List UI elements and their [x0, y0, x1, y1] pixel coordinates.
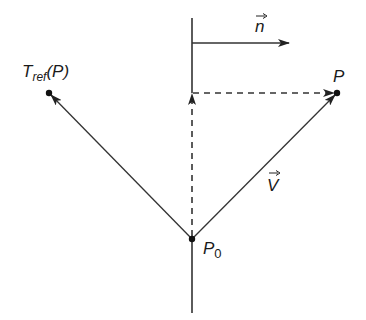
label-tref-p: Tref(P) [22, 62, 69, 84]
point-tref-p [46, 90, 52, 96]
svg-text:V: V [267, 176, 280, 195]
vector-v [192, 95, 335, 239]
vector-reflected [51, 95, 192, 239]
svg-text:n: n [255, 17, 264, 36]
label-p: P [333, 67, 345, 86]
label-p0: P0 [203, 239, 222, 261]
label-vector-v: V [267, 171, 280, 196]
label-normal: n [255, 14, 267, 37]
reflection-diagram: n P Tref(P) V P0 [0, 0, 366, 320]
diagram-svg: n P Tref(P) V P0 [0, 0, 366, 320]
point-p0 [189, 236, 195, 242]
point-p [334, 90, 340, 96]
